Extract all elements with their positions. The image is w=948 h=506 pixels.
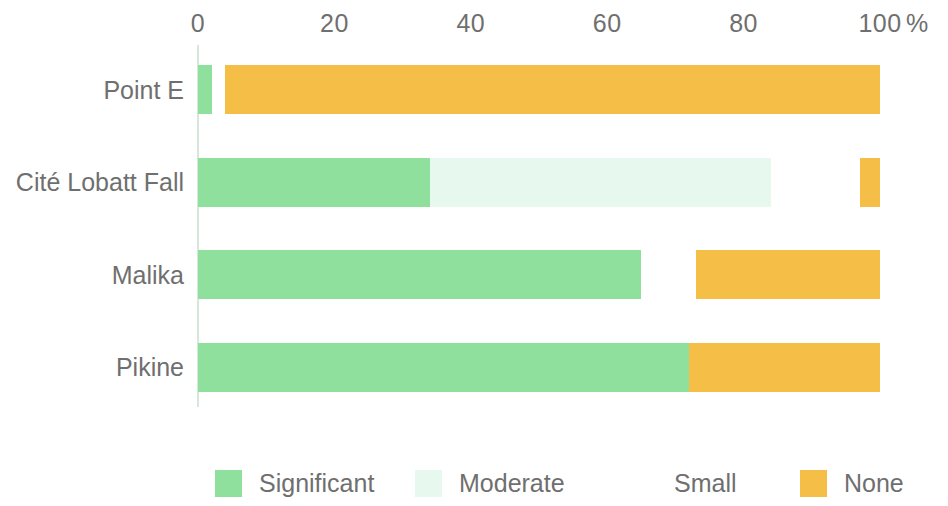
bar-row	[198, 158, 880, 207]
bar-segment-significant	[198, 65, 212, 114]
legend-swatch-icon	[215, 470, 242, 497]
y-axis-category-label: Malika	[112, 260, 184, 290]
x-axis-tick-60: 60	[593, 8, 622, 38]
bar-segment-moderate	[430, 158, 771, 207]
y-axis-category-label: Pikine	[116, 352, 184, 382]
bar-segment-significant	[198, 250, 641, 299]
bar-segment-small	[212, 65, 226, 114]
legend-item[interactable]: Moderate	[415, 466, 565, 500]
bar-segment-none	[689, 343, 880, 392]
y-axis-category-label: Point E	[103, 75, 184, 105]
x-axis-tick-labels: 020406080100	[0, 8, 948, 38]
y-axis-category-label: Cité Lobatt Fall	[16, 167, 184, 197]
legend-swatch-icon	[415, 470, 442, 497]
x-axis-tick-0: 0	[191, 8, 205, 38]
bar-segment-small	[771, 158, 860, 207]
legend-label: Moderate	[459, 468, 565, 498]
legend-label: None	[844, 468, 904, 498]
legend-item[interactable]: Small	[630, 466, 737, 500]
x-axis-tick-20: 20	[320, 8, 349, 38]
chart-legend: SignificantModerateSmallNone	[0, 466, 948, 506]
bar-segment-significant	[198, 158, 430, 207]
legend-label: Small	[674, 468, 737, 498]
x-axis-tick-80: 80	[729, 8, 758, 38]
legend-swatch-icon	[630, 470, 657, 497]
y-axis-category-labels: Point ECité Lobatt FallMalikaPikine	[0, 45, 198, 407]
legend-label: Significant	[259, 468, 374, 498]
bar-row	[198, 343, 880, 392]
stacked-bar-chart: 020406080100 % Point ECité Lobatt FallMa…	[0, 0, 948, 506]
bar-segment-none	[860, 158, 880, 207]
x-axis-unit-label: %	[906, 8, 928, 38]
bar-row	[198, 65, 880, 114]
bar-row	[198, 250, 880, 299]
x-axis-tick-40: 40	[456, 8, 485, 38]
plot-area	[198, 45, 880, 407]
legend-item[interactable]: Significant	[215, 466, 374, 500]
legend-item[interactable]: None	[800, 466, 904, 500]
x-axis-tick-100: 100	[858, 8, 901, 38]
bar-segment-none	[696, 250, 880, 299]
bar-segment-significant	[198, 343, 689, 392]
legend-swatch-icon	[800, 470, 827, 497]
bar-segment-small	[641, 250, 696, 299]
bar-segment-none	[225, 65, 880, 114]
